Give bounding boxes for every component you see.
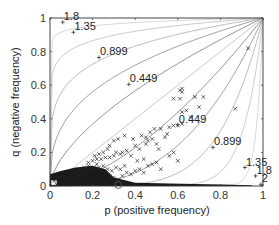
diagonal-line — [50, 18, 263, 186]
data-point-x-marker — [114, 151, 118, 155]
y-tick-label: 0.4 — [31, 113, 46, 125]
y-tick-label: 0 — [40, 180, 46, 192]
data-point-x-marker — [153, 127, 157, 131]
contour-label: 0.899 — [100, 45, 128, 57]
data-point-x-marker — [142, 171, 146, 175]
data-point-x-marker — [150, 137, 154, 141]
data-point-x-marker — [106, 147, 110, 151]
x-tick-label: 0 — [47, 189, 53, 201]
data-point-x-marker — [99, 157, 103, 161]
data-point-x-marker — [116, 137, 120, 141]
data-point-x-marker — [93, 154, 97, 158]
data-point-x-marker — [167, 125, 171, 129]
x-tick-label: 0.8 — [213, 189, 228, 201]
data-point-x-marker — [246, 46, 250, 50]
data-point-x-marker — [155, 142, 159, 146]
data-point-x-marker — [129, 154, 133, 158]
data-point-x-marker — [167, 154, 171, 158]
data-point-x-marker — [104, 156, 108, 160]
data-point-x-marker — [108, 144, 112, 148]
data-point-x-marker — [95, 157, 99, 161]
y-tick-label: 0.6 — [31, 79, 46, 91]
x-tick-label: 0.6 — [170, 189, 185, 201]
x-tick-label: 0.2 — [85, 189, 100, 201]
data-point-x-marker — [114, 166, 118, 170]
data-point-x-marker — [110, 169, 114, 173]
data-point-x-marker — [157, 147, 161, 151]
data-point-x-marker — [202, 95, 206, 99]
data-point-x-marker — [165, 132, 169, 136]
data-point-x-marker — [118, 167, 122, 171]
contour-labels: 1.81.350.8990.4490.4490.8991.351.82 — [61, 10, 272, 186]
data-point-x-marker — [146, 139, 150, 143]
data-point-x-marker — [163, 135, 167, 139]
x-tick-label: 1 — [260, 189, 266, 201]
data-point-x-marker — [138, 147, 142, 151]
data-point-x-marker — [159, 167, 163, 171]
data-point-x-marker — [112, 139, 116, 143]
data-point-x-marker — [95, 162, 99, 166]
data-point-x-marker — [140, 134, 144, 138]
data-point-x-marker — [178, 97, 182, 101]
data-point-x-marker — [125, 149, 129, 153]
data-point-x-marker — [112, 154, 116, 158]
y-axis-label: q (negative frequency) — [9, 47, 21, 156]
data-point-x-marker — [108, 156, 112, 160]
y-tick-label: 0.2 — [31, 146, 46, 158]
data-point-x-marker — [144, 135, 148, 139]
contour-label: 0.449 — [179, 113, 207, 125]
data-point-x-marker — [172, 97, 176, 101]
data-point-x-marker — [172, 124, 176, 128]
data-point-x-marker — [142, 157, 146, 161]
data-point-x-marker — [97, 152, 101, 156]
data-point-x-marker — [185, 109, 189, 113]
data-point-x-marker — [176, 159, 180, 163]
contour-label: 0.449 — [130, 72, 158, 84]
diagonal-line — [50, 18, 263, 186]
data-point-x-marker — [131, 137, 135, 141]
data-point-x-marker — [133, 144, 137, 148]
data-point-x-marker — [133, 169, 137, 173]
data-point-x-marker — [91, 159, 95, 163]
data-point-x-marker — [144, 142, 148, 146]
data-point-x-marker — [197, 105, 201, 109]
data-point-x-marker — [136, 159, 140, 163]
x-tick-label: 0.4 — [128, 189, 143, 201]
data-point-x-marker — [101, 164, 105, 168]
data-point-x-marker — [138, 167, 142, 171]
data-point-x-marker — [150, 162, 154, 166]
contour-label: 0.899 — [214, 135, 242, 147]
data-point-x-marker — [106, 167, 110, 171]
y-tick-label: 1 — [40, 12, 46, 24]
scatter-chart: 1.81.350.8990.4490.4490.8991.351.82 00.2… — [0, 0, 279, 225]
data-point-x-marker — [123, 134, 127, 138]
data-point-x-marker — [123, 164, 127, 168]
data-point-x-marker — [178, 88, 182, 92]
data-point-x-marker — [118, 152, 122, 156]
y-tick-label: 0.8 — [31, 46, 46, 58]
data-point-x-marker — [125, 171, 129, 175]
x-axis-label: p (positive frequency) — [104, 204, 209, 216]
data-point-x-marker — [101, 151, 105, 155]
data-point-x-marker — [87, 161, 91, 165]
data-point-x-marker — [234, 107, 238, 111]
data-point-x-marker — [148, 130, 152, 134]
contour-label: 1.35 — [74, 20, 95, 32]
data-point-x-marker — [172, 151, 176, 155]
